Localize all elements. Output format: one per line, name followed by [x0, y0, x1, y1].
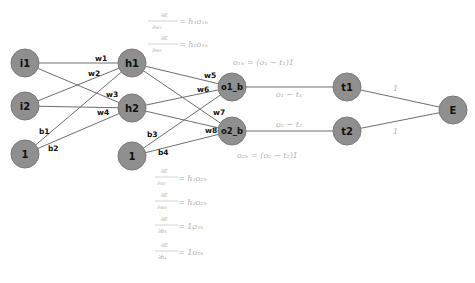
svg-text:∂w₈: ∂w₈: [157, 204, 168, 210]
svg-text:h1: h1: [125, 58, 139, 69]
node-i1: i1: [11, 49, 39, 77]
svg-text:∂E: ∂E: [161, 192, 168, 198]
node-bias-input: 1: [11, 140, 39, 168]
edge-t1-E: [347, 87, 453, 110]
gradient-formulas-bottom: ∂E ∂w₇ = h₁o₂ₕ ∂E ∂w₈ = h₂o₂ₕ ∂E ∂b₃ = 1…: [155, 168, 207, 260]
svg-text:∂w₇: ∂w₇: [157, 180, 168, 186]
gradient-w7: ∂E ∂w₇ = h₁o₂ₕ: [155, 168, 207, 186]
svg-text:h2: h2: [125, 103, 139, 114]
svg-text:∂E: ∂E: [161, 216, 168, 222]
node-o1b: o1_b: [218, 73, 246, 101]
node-h2: h2: [118, 94, 146, 122]
label-w2: w2: [88, 69, 100, 78]
svg-text:E: E: [450, 105, 457, 116]
svg-text:1: 1: [129, 151, 136, 162]
svg-text:i2: i2: [20, 101, 30, 112]
svg-text:= 1o₂ₕ: = 1o₂ₕ: [178, 248, 204, 257]
svg-text:t1: t1: [341, 82, 353, 93]
edge-i2-h2: [25, 106, 132, 108]
svg-text:i1: i1: [20, 58, 30, 69]
svg-text:= h₂o₁ₕ: = h₂o₁ₕ: [179, 40, 208, 49]
label-w7: w7: [213, 108, 225, 117]
gradient-formulas-top: ∂E ∂w₅ = h₁o₁ₕ ∂E ∂w₆ = h₂o₁ₕ: [148, 12, 208, 53]
gradient-w5: ∂E ∂w₅ = h₁o₁ₕ: [148, 12, 208, 30]
label-w8: w8: [205, 126, 217, 135]
label-w1: w1: [95, 54, 107, 63]
svg-text:= h₁o₁ₕ: = h₁o₁ₕ: [179, 17, 208, 26]
label-t1-E: 1: [393, 84, 398, 93]
svg-text:∂E: ∂E: [161, 35, 168, 41]
edge-h1-o1b: [132, 63, 232, 87]
label-w6: w6: [197, 85, 209, 94]
label-b1: b1: [39, 127, 50, 136]
label-w3: w3: [106, 90, 118, 99]
gradient-b4: ∂E ∂b₄ = 1o₂ₕ: [155, 242, 204, 260]
svg-text:∂E: ∂E: [161, 12, 168, 18]
svg-text:∂b₃: ∂b₃: [158, 228, 167, 234]
label-b4: b4: [158, 148, 169, 157]
node-i2: i2: [11, 92, 39, 120]
node-o2b: o2_b: [218, 117, 246, 145]
edge-t2-E: [347, 110, 453, 131]
backprop-network-diagram: w1 w2 w3 w4 b1 b2 w5 w6 w7 w8 b3 b4 o₁ −…: [0, 0, 475, 283]
gradient-w8: ∂E ∂w₈ = h₂o₂ₕ: [155, 192, 207, 210]
svg-text:o2_b: o2_b: [221, 126, 243, 136]
node-h1: h1: [118, 49, 146, 77]
node-bias-hidden: 1: [118, 142, 146, 170]
label-b2: b2: [48, 144, 59, 153]
svg-text:= h₂o₂ₕ: = h₂o₂ₕ: [178, 198, 207, 207]
node-E: E: [439, 96, 467, 124]
label-w4: w4: [97, 108, 109, 117]
svg-text:∂E: ∂E: [161, 168, 168, 174]
svg-text:o1_b: o1_b: [221, 82, 243, 92]
svg-text:= 1o₁ₕ: = 1o₁ₕ: [178, 222, 204, 231]
svg-text:∂E: ∂E: [161, 242, 168, 248]
delta-o2b: o₂ₕ = (o₂ − t₂)1: [237, 151, 298, 160]
label-o2-minus-t2: o₂ − t₂: [276, 120, 302, 129]
svg-text:∂w₅: ∂w₅: [152, 24, 163, 30]
svg-text:t2: t2: [341, 126, 353, 137]
delta-o1b: o₁ₕ = (o₁ − t₁)1: [233, 58, 294, 67]
svg-text:1: 1: [22, 149, 29, 160]
svg-text:= h₁o₂ₕ: = h₁o₂ₕ: [178, 174, 207, 183]
svg-text:∂w₆: ∂w₆: [152, 47, 163, 53]
edge-bias1-h1: [25, 63, 132, 154]
label-t2-E: 1: [393, 127, 398, 136]
label-o1-minus-t1: o₁ − t₁: [276, 90, 302, 99]
node-t1: t1: [333, 73, 361, 101]
node-t2: t2: [333, 117, 361, 145]
gradient-b3: ∂E ∂b₃ = 1o₁ₕ: [155, 216, 204, 234]
label-w5: w5: [204, 71, 216, 80]
gradient-w6: ∂E ∂w₆ = h₂o₁ₕ: [148, 35, 208, 53]
label-b3: b3: [147, 130, 158, 139]
svg-text:∂b₄: ∂b₄: [158, 254, 167, 260]
